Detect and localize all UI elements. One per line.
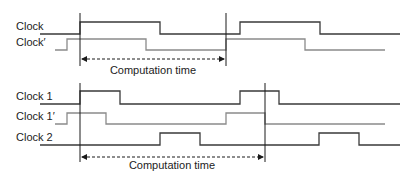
clock-1-prime-waveform xyxy=(55,113,385,124)
clock-2-label: Clock 2 xyxy=(16,131,53,143)
computation-time-label: Computation time xyxy=(129,159,215,171)
timing-diagram: Clock Clock′ Computation time Clock 1 Cl… xyxy=(0,0,414,179)
clock-1-label: Clock 1 xyxy=(16,90,53,102)
computation-time-label: Computation time xyxy=(110,64,196,76)
top-timing-diagram: Clock Clock′ Computation time xyxy=(16,13,400,76)
clock-prime-waveform xyxy=(55,39,385,50)
clock-waveform xyxy=(40,22,400,34)
clock-1-waveform xyxy=(40,91,400,104)
bottom-timing-diagram: Clock 1 Clock 1′ Clock 2 Computation tim… xyxy=(16,83,400,171)
clock-prime-label: Clock′ xyxy=(16,36,46,48)
clock-1-prime-label: Clock 1′ xyxy=(16,110,55,122)
clock-2-waveform xyxy=(40,133,400,145)
clock-label: Clock xyxy=(16,20,44,32)
